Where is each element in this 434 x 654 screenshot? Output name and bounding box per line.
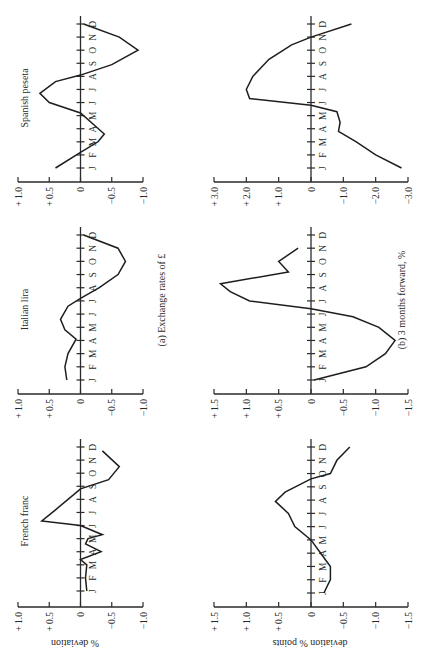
month-label: F (88, 575, 98, 581)
value-tick-label: −1.0 (371, 399, 381, 416)
month-label: M (318, 562, 328, 571)
month-label: O (88, 46, 98, 53)
figure-canvas: + 1.0+ 0.50−0.5−1.0JFMAMJJASONDFrench fr… (0, 0, 434, 654)
month-label: A (88, 73, 98, 80)
month-label: F (318, 152, 328, 158)
month-label: J (318, 312, 328, 316)
chart-panel: + 1.0+ 0.50−0.5−1.0JFMAMJJASONDItalian l… (14, 227, 149, 419)
month-label: S (318, 272, 328, 278)
data-line (40, 24, 138, 168)
value-tick-label: + 0.5 (274, 399, 284, 419)
month-label: J (88, 100, 98, 104)
chart-panels: + 1.0+ 0.50−0.5−1.0JFMAMJJASONDFrench fr… (14, 16, 414, 632)
value-tick-label: −0.5 (107, 399, 117, 416)
value-tick-label: 0 (307, 187, 317, 192)
month-label: M (318, 111, 328, 120)
panel-title: Spanish peseta (19, 68, 30, 128)
value-tick-label: + 0.5 (45, 399, 55, 419)
value-tick-label: + 1.0 (242, 612, 252, 632)
month-label: M (318, 349, 328, 358)
value-tick-label: −0.5 (107, 612, 117, 629)
month-label: S (318, 60, 328, 66)
value-tick-label: 0 (76, 612, 86, 617)
value-tick-label: −0.5 (107, 187, 117, 204)
month-label: N (88, 33, 98, 40)
month-label: D (88, 443, 98, 450)
value-tick-label: −0.5 (339, 612, 349, 629)
month-label: A (318, 496, 328, 503)
month-label: N (88, 456, 98, 463)
month-label: D (318, 20, 328, 27)
value-tick-label: −0.5 (339, 399, 349, 416)
caption-a: (a) Exchange rates of £ (156, 254, 168, 347)
ylabel-b: deviation % points (272, 638, 347, 649)
month-label: F (88, 152, 98, 158)
month-label: M (88, 560, 98, 569)
value-tick-label: + 1.0 (14, 399, 24, 419)
month-label: N (88, 244, 98, 251)
month-label: F (88, 364, 98, 370)
chart-panel: + 1.0+ 0.50−0.5−1.0JFMAMJJASONDFrench fr… (14, 439, 149, 632)
value-tick-label: + 0.5 (274, 612, 284, 632)
month-label: J (88, 510, 98, 514)
value-tick-label: 0 (307, 612, 317, 617)
month-label: O (318, 46, 328, 53)
ylabel-a: % deviation (51, 638, 99, 649)
value-tick-label: 0 (76, 187, 86, 192)
month-label: M (318, 535, 328, 544)
month-label: J (318, 591, 328, 595)
month-label: J (88, 312, 98, 316)
month-label: J (88, 378, 98, 382)
month-label: F (318, 364, 328, 370)
month-label: A (318, 125, 328, 132)
value-tick-label: + 1.0 (274, 187, 284, 207)
value-tick-label: + 1.5 (210, 399, 220, 419)
month-label: O (88, 258, 98, 265)
month-label: O (318, 258, 328, 265)
month-label: J (88, 299, 98, 303)
month-label: J (318, 87, 328, 91)
value-tick-label: + 1.0 (14, 187, 24, 207)
value-tick-label: + 0.5 (45, 612, 55, 632)
month-label: J (88, 166, 98, 170)
month-label: N (318, 457, 328, 464)
month-label: A (318, 337, 328, 344)
chart-panel: + 1.5+ 1.0+ 0.50−0.5−1.0−1.5JFMAMJJASOND (210, 227, 414, 419)
value-tick-label: + 1.5 (210, 612, 220, 632)
value-tick-label: −1.0 (339, 187, 349, 204)
month-label: D (318, 443, 328, 450)
panel-title: French franc (19, 495, 30, 546)
month-label: N (318, 244, 328, 251)
value-tick-label: + 3.0 (210, 187, 220, 207)
month-label: A (318, 284, 328, 291)
month-label: S (318, 484, 328, 490)
month-label: D (318, 231, 328, 238)
month-label: A (88, 337, 98, 344)
month-label: J (318, 299, 328, 303)
chart-panel: + 1.5+ 1.0+ 0.50−0.5−1.0−1.5JFMAMJJASOND (210, 439, 414, 632)
value-tick-label: −3.0 (404, 187, 414, 204)
month-label: M (88, 349, 98, 358)
month-label: M (318, 323, 328, 332)
month-label: M (318, 137, 328, 146)
value-tick-label: −1.5 (404, 399, 414, 416)
month-label: M (88, 323, 98, 332)
caption-b: (b) 3 months forward, % (396, 251, 408, 350)
month-label: J (318, 511, 328, 515)
value-tick-label: + 1.0 (14, 612, 24, 632)
value-tick-label: + 1.0 (242, 399, 252, 419)
value-tick-label: 0 (307, 399, 317, 404)
month-label: J (88, 589, 98, 593)
month-label: A (318, 73, 328, 80)
value-tick-label: −1.5 (404, 612, 414, 629)
month-label: J (88, 523, 98, 527)
value-tick-label: −1.0 (371, 612, 381, 629)
month-label: S (88, 272, 98, 278)
month-label: O (88, 469, 98, 476)
month-label: S (88, 60, 98, 66)
month-label: J (318, 100, 328, 104)
month-label: F (318, 577, 328, 583)
chart-panel: + 3.0+ 2.0+ 1.00−1.0−2.0−3.0JFMAMJJASOND (210, 16, 414, 207)
value-tick-label: 0 (76, 399, 86, 404)
month-label: J (88, 87, 98, 91)
